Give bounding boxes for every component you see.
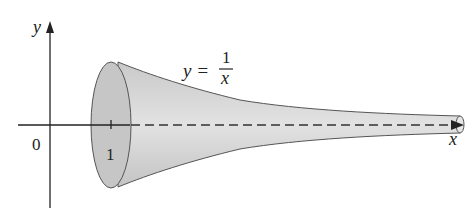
tick-label-1: 1 — [106, 145, 115, 164]
y-axis-arrow-icon — [46, 21, 54, 33]
equation-denominator: x — [220, 68, 229, 88]
gabriels-horn-figure: y 0 1 x y = 1 x — [0, 0, 473, 213]
y-axis-label: y — [31, 17, 41, 37]
equation-numerator: 1 — [222, 48, 231, 67]
x-axis-label: x — [448, 129, 457, 149]
origin-label: 0 — [32, 135, 41, 154]
equation-lhs: y = — [181, 60, 209, 81]
